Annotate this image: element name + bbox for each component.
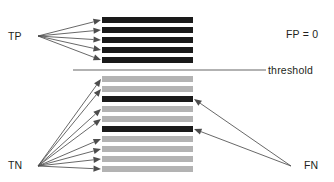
diagram-graphics (0, 0, 334, 182)
label-tp: TP (8, 31, 22, 42)
bar-below-threshold-6 (102, 126, 193, 132)
label-threshold: threshold (268, 65, 313, 76)
arrow-head (194, 99, 202, 106)
arrow-head (93, 19, 101, 25)
arrow-shaft (38, 166, 94, 169)
arrow-shaft (38, 123, 95, 166)
diagram-canvas: TP TN FP = 0 FN threshold (0, 0, 334, 182)
arrow-shaft (38, 95, 96, 166)
arrow-head (93, 157, 101, 163)
bar-above-threshold-2 (102, 27, 193, 33)
arrow-head (93, 28, 101, 34)
arrow-shaft (201, 132, 291, 166)
arrow-tn-4 (38, 119, 101, 166)
arrow-shaft (38, 160, 94, 166)
label-tn: TN (8, 160, 22, 171)
bar-above-threshold-3 (102, 37, 193, 43)
label-fn: FN (304, 160, 318, 171)
arrow-head (93, 166, 101, 172)
arrow-shaft (38, 31, 94, 36)
arrow-head (93, 139, 101, 145)
arrow-tn-2 (38, 89, 101, 166)
arrow-shaft (38, 22, 94, 36)
bar-below-threshold-3 (102, 96, 193, 102)
bar-below-threshold-4 (102, 106, 193, 112)
label-fp-equals-zero: FP = 0 (286, 29, 318, 40)
bar-below-threshold-1 (102, 76, 193, 82)
bar-above-threshold-4 (102, 47, 193, 53)
arrow-tn-8 (38, 166, 101, 172)
arrow-head (93, 45, 101, 51)
bar-below-threshold-10 (102, 166, 193, 172)
arrow-tp-2 (38, 28, 101, 36)
bar-above-threshold-1 (102, 17, 193, 23)
bar-below-threshold-8 (102, 146, 193, 152)
bar-below-threshold-7 (102, 136, 193, 142)
arrow-head (93, 36, 101, 42)
arrow-head (93, 119, 101, 126)
bar-above-threshold-5 (102, 57, 193, 63)
bar-below-threshold-2 (102, 86, 193, 92)
arrow-fn-1 (194, 99, 291, 166)
bar-below-threshold-9 (102, 156, 193, 162)
arrow-tn-7 (38, 157, 101, 166)
arrow-head (194, 129, 202, 135)
arrow-head (93, 148, 101, 154)
bar-below-threshold-5 (102, 116, 193, 122)
arrow-fn-2 (194, 129, 291, 166)
arrow-shaft (200, 103, 291, 166)
arrow-head (93, 54, 101, 60)
arrow-head (94, 79, 101, 87)
arrow-head (94, 89, 101, 97)
